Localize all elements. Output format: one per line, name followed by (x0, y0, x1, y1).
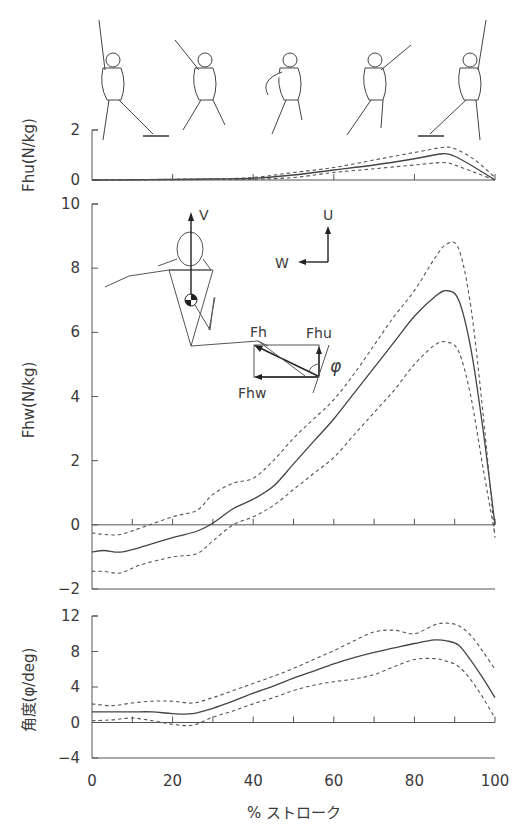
mean-curve (92, 154, 495, 180)
y-tick-label: 0 (70, 516, 80, 534)
fhu-panel: 02 (70, 121, 495, 189)
fhw-arrowhead-icon (254, 374, 262, 380)
u-label: U (323, 207, 333, 223)
angle-panel: −404812020406080100 (58, 607, 509, 790)
y-tick-label: 12 (61, 607, 80, 625)
sd-curve (92, 623, 495, 706)
fh-thin-line (258, 341, 305, 376)
skater-pose-2-icon (175, 40, 225, 130)
figure: 02 −20246810 −404812020406080100 V (0, 0, 528, 835)
x-tick-label: 80 (405, 772, 424, 790)
limb-line-2 (209, 297, 215, 330)
fhu-arrowhead-icon (316, 346, 322, 354)
x-tick-label: 60 (324, 772, 343, 790)
fh-label: Fh (250, 324, 267, 340)
fhw-label: Fhw (238, 385, 266, 401)
w-arrowhead-icon (298, 259, 306, 265)
center-of-mass-icon (185, 294, 197, 306)
head-ellipse (177, 232, 203, 266)
x-tick-label: 20 (163, 772, 182, 790)
mean-curve (92, 291, 495, 553)
y-tick-label: 8 (70, 259, 80, 277)
sd-curve (92, 242, 495, 538)
fhu-axis-title: Fhu(N/kg) (20, 118, 38, 192)
v-arrowhead-icon (188, 212, 194, 221)
leg-line (105, 270, 211, 287)
sd-curve (92, 341, 495, 573)
x-axis-title: % ストローク (247, 804, 341, 822)
y-tick-label: 0 (70, 714, 80, 732)
y-tick-label: 2 (70, 452, 80, 470)
fhw-axis-title: Fhw(N/kg) (20, 362, 38, 439)
fh-arrowhead-icon (254, 345, 263, 352)
sd-curve (92, 658, 495, 725)
y-tick-label: 0 (70, 171, 80, 189)
skater-pose-5-icon (418, 20, 486, 140)
shoulder-line (203, 259, 211, 270)
v-label: V (199, 207, 209, 223)
fh-arrow (258, 347, 318, 376)
skater-pose-3-icon (266, 53, 302, 134)
y-tick-label: 2 (70, 121, 80, 139)
sd-curve (92, 163, 495, 181)
phi-label: φ (330, 356, 342, 376)
y-tick-label: −4 (58, 749, 80, 767)
skater-pose-4-icon (347, 45, 411, 135)
x-tick-label: 100 (481, 772, 510, 790)
force-vector-diagram: V Fh Fhu Fhw φ U W (105, 207, 342, 401)
y-tick-label: 4 (70, 678, 80, 696)
fhu-label: Fhu (306, 325, 332, 341)
angle-axis-title: 角度(φ/deg) (20, 648, 38, 733)
y-tick-label: 4 (70, 388, 80, 406)
mean-curve (92, 640, 495, 714)
y-tick-label: −2 (58, 580, 80, 598)
w-label: W (275, 255, 289, 271)
skater-pose-1-icon (99, 20, 169, 140)
arm-line (158, 259, 177, 266)
skater-figures (99, 20, 486, 140)
u-arrowhead-icon (325, 226, 331, 234)
x-tick-label: 40 (244, 772, 263, 790)
y-tick-label: 6 (70, 323, 80, 341)
y-tick-label: 10 (61, 195, 80, 213)
y-tick-label: 8 (70, 643, 80, 661)
x-tick-label: 0 (87, 772, 97, 790)
